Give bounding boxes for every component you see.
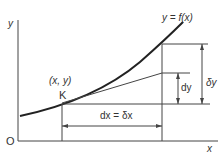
x-axis-label: x — [207, 144, 212, 154]
dx-arrowhead-right — [156, 124, 162, 128]
dy-arrowhead-top — [176, 73, 180, 79]
curve-label: y = f(x) — [162, 13, 193, 23]
delta-y-arrowhead-bottom — [200, 98, 204, 104]
delta-y-label: δy — [206, 78, 217, 88]
dx-arrowhead-left — [62, 124, 68, 128]
delta-y-arrowhead-top — [200, 44, 204, 50]
derivative-diagram — [0, 0, 222, 160]
dx-label: dx = δx — [100, 111, 133, 121]
dy-label: dy — [181, 83, 192, 93]
point-coord-label: (x, y) — [49, 76, 71, 86]
curve-f — [20, 22, 183, 116]
origin-label: O — [6, 136, 15, 147]
y-axis-label: y — [8, 19, 13, 29]
tangent-line — [62, 73, 162, 103]
point-name-label: K — [59, 90, 66, 101]
dy-arrowhead-bottom — [176, 98, 180, 104]
